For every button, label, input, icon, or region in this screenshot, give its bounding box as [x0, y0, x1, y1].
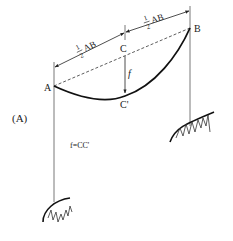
right-ground-icon — [170, 112, 214, 142]
figure-label: (A) — [12, 112, 28, 125]
formula-label: f=CC' — [70, 141, 90, 150]
conductor-curve — [54, 28, 190, 100]
sag-diagram: A B C C' f 1 2 AB 1 2 AB (A) f=CC' — [0, 0, 233, 241]
sag-symbol-label: f — [128, 68, 132, 79]
dimension-left-label: 1 2 AB — [73, 36, 99, 60]
svg-text:AB: AB — [82, 39, 98, 53]
point-b-label: B — [194, 23, 201, 34]
point-c-prime-label: C' — [120, 99, 129, 110]
svg-text:1: 1 — [143, 14, 149, 23]
point-a-label: A — [44, 82, 52, 93]
point-c-label: C — [120, 43, 127, 54]
svg-text:AB: AB — [150, 12, 165, 25]
left-ground-icon — [43, 198, 72, 222]
dimension-right-label: 1 2 AB — [141, 9, 166, 32]
